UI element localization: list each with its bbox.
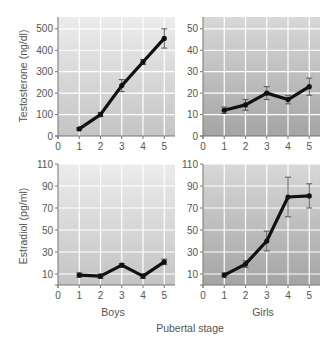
- data-point: [77, 273, 82, 278]
- panel-top-right: 01020304050012345: [187, 17, 320, 152]
- boys-label: Boys: [101, 306, 124, 318]
- panel-bottom-right: 1030507090110012345: [182, 159, 320, 302]
- data-point: [222, 273, 227, 278]
- x-tick-label: 1: [221, 290, 227, 301]
- x-tick-label: 3: [119, 141, 125, 152]
- plot-area: [58, 17, 175, 136]
- x-tick-label: 3: [264, 290, 270, 301]
- x-tick-label: 2: [98, 290, 104, 301]
- data-point: [285, 194, 290, 199]
- x-tick-label: 0: [55, 290, 61, 301]
- plot-area: [203, 164, 320, 285]
- x-tick-label: 1: [76, 141, 82, 152]
- y-tick-label: 0: [47, 131, 53, 142]
- x-tick-label: 4: [140, 141, 146, 152]
- data-point: [140, 274, 145, 279]
- data-point: [243, 262, 248, 267]
- x-tick-label: 4: [140, 290, 146, 301]
- y-tick-label: 100: [36, 109, 53, 120]
- estradiol-axis-title: Estradiol (pg/ml): [17, 188, 29, 264]
- y-tick-label: 40: [187, 45, 199, 56]
- data-point: [307, 193, 312, 198]
- panel-bottom-left: 1030507090110012345: [37, 159, 175, 302]
- x-tick-label: 2: [243, 290, 249, 301]
- x-tick-label: 4: [285, 290, 291, 301]
- panel-top-left: 0100200300400500012345: [36, 17, 175, 152]
- y-tick-label: 200: [36, 88, 53, 99]
- y-tick-label: 300: [36, 66, 53, 77]
- y-tick-label: 110: [182, 159, 198, 170]
- x-tick-label: 0: [55, 141, 61, 152]
- y-tick-label: 50: [187, 225, 199, 236]
- y-tick-label: 50: [187, 23, 199, 34]
- x-tick-label: 5: [161, 290, 167, 301]
- x-tick-label: 2: [98, 141, 104, 152]
- data-point: [285, 97, 290, 102]
- data-point: [162, 259, 167, 264]
- x-tick-label: 2: [243, 141, 249, 152]
- data-point: [119, 83, 124, 88]
- data-point: [264, 238, 269, 243]
- y-tick-label: 70: [187, 203, 199, 214]
- y-tick-label: 0: [192, 131, 198, 142]
- x-tick-label: 0: [200, 290, 206, 301]
- y-tick-label: 10: [42, 269, 54, 280]
- chart-panels: 0100200300400500012345010203040500123451…: [36, 17, 320, 301]
- x-tick-label: 1: [76, 290, 82, 301]
- x-tick-label: 5: [306, 290, 312, 301]
- data-point: [243, 102, 248, 107]
- x-tick-label: 5: [161, 141, 167, 152]
- y-tick-label: 50: [42, 225, 54, 236]
- data-point: [307, 84, 312, 89]
- x-tick-label: 4: [285, 141, 291, 152]
- data-point: [98, 112, 103, 117]
- data-point: [119, 263, 124, 268]
- x-tick-label: 1: [221, 141, 227, 152]
- data-point: [77, 126, 82, 131]
- y-tick-label: 500: [36, 23, 53, 34]
- data-point: [140, 59, 145, 64]
- plot-area: [203, 17, 320, 136]
- data-point: [264, 91, 269, 96]
- x-tick-label: 3: [264, 141, 270, 152]
- y-tick-label: 110: [37, 159, 53, 170]
- y-tick-label: 90: [42, 181, 54, 192]
- figure: 0100200300400500012345010203040500123451…: [0, 0, 331, 342]
- y-tick-label: 400: [36, 45, 53, 56]
- testosterone-axis-title: Testosterone (ng/dl): [17, 30, 29, 123]
- y-tick-label: 10: [187, 269, 199, 280]
- x-tick-label: 3: [119, 290, 125, 301]
- y-tick-label: 30: [187, 66, 199, 77]
- data-point: [222, 108, 227, 113]
- y-tick-label: 30: [187, 247, 199, 258]
- y-tick-label: 70: [42, 203, 54, 214]
- y-tick-label: 30: [42, 247, 54, 258]
- data-point: [162, 36, 167, 41]
- x-tick-label: 0: [200, 141, 206, 152]
- data-point: [98, 274, 103, 279]
- y-tick-label: 90: [187, 181, 199, 192]
- y-tick-label: 10: [187, 109, 199, 120]
- girls-label: Girls: [252, 306, 274, 318]
- pubertal-stage-label: Pubertal stage: [156, 322, 224, 334]
- x-tick-label: 5: [306, 141, 312, 152]
- y-tick-label: 20: [187, 88, 199, 99]
